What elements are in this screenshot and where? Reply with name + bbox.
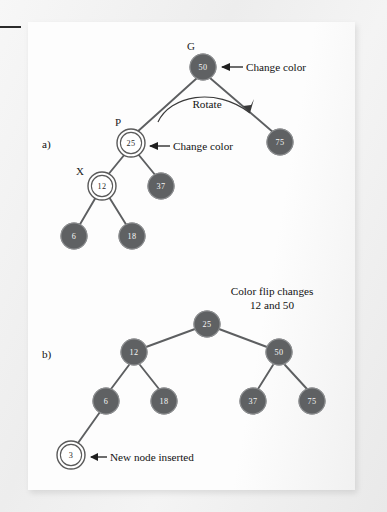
color-flip-line1: Color flip changes (231, 285, 314, 297)
node-a-37[interactable]: 37 (148, 173, 175, 200)
panel-b: Color flip changes 12 and 50 b) 25 12 50 (42, 285, 326, 469)
new-node-note-text: New node inserted (110, 451, 194, 463)
edge-25-12 (107, 154, 125, 176)
change-color-arrow-mid (149, 142, 170, 150)
node-b-3-value: 3 (69, 451, 73, 460)
rotate-arrowhead (243, 99, 254, 113)
node-a-6[interactable]: 6 (61, 223, 88, 250)
node-a-50[interactable]: 50 (190, 54, 217, 81)
node-a-6-value: 6 (72, 232, 76, 241)
node-b-75-value: 75 (308, 397, 317, 406)
node-b-6[interactable]: 6 (93, 388, 120, 415)
node-a-25-value: 25 (127, 139, 136, 148)
edge-b-25-12 (146, 329, 195, 347)
rotate-label: Rotate (192, 98, 221, 110)
edge-b-12-6 (111, 365, 129, 389)
edge-25-37 (138, 154, 156, 176)
node-a-37-value: 37 (157, 182, 166, 191)
panel-a-label: a) (42, 138, 51, 151)
panel-b-label: b) (42, 348, 52, 361)
node-b-6-value: 6 (104, 397, 108, 406)
node-b-50[interactable]: 50 (266, 339, 293, 366)
edge-b-12-18 (140, 365, 159, 389)
edge-b-6-3 (78, 412, 100, 443)
node-b-12[interactable]: 12 (121, 339, 148, 366)
edge-50-25 (136, 78, 197, 133)
change-color-mid-text: Change color (173, 140, 233, 152)
change-color-top-text: Change color (246, 61, 306, 73)
node-b-25[interactable]: 25 (194, 311, 221, 338)
node-a-12-value: 12 (98, 182, 107, 191)
node-a-50-value: 50 (199, 63, 208, 72)
node-a-18-value: 18 (128, 232, 137, 241)
node-b-18-value: 18 (160, 397, 169, 406)
edge-b-25-50 (219, 329, 267, 347)
label-G: G (187, 40, 195, 52)
new-node-arrow (90, 453, 107, 461)
node-b-12-value: 12 (130, 348, 139, 357)
node-a-75[interactable]: 75 (267, 129, 294, 156)
edge-b-50-37 (258, 365, 273, 389)
node-a-25[interactable]: 25 (117, 129, 145, 157)
red-black-tree-figure: 50 G Change color Rotate 75 a) 25 P (0, 0, 387, 512)
node-a-12[interactable]: 12 (88, 172, 116, 200)
change-color-arrow-top (221, 63, 243, 71)
panel-a: 50 G Change color Rotate 75 a) 25 P (42, 40, 306, 250)
edge-12-6 (79, 197, 96, 226)
node-a-75-value: 75 (276, 138, 285, 147)
label-X: X (76, 165, 84, 177)
node-b-25-value: 25 (203, 320, 212, 329)
color-flip-line2: 12 and 50 (250, 299, 295, 311)
node-b-75[interactable]: 75 (299, 388, 326, 415)
node-b-37-value: 37 (249, 397, 258, 406)
node-b-50-value: 50 (275, 348, 284, 357)
edge-b-50-75 (285, 365, 307, 389)
label-P: P (115, 116, 121, 128)
node-a-18[interactable]: 18 (119, 223, 146, 250)
node-b-37[interactable]: 37 (240, 388, 267, 415)
node-b-3[interactable]: 3 (57, 441, 85, 469)
edge-12-18 (109, 197, 127, 226)
node-b-18[interactable]: 18 (151, 388, 178, 415)
